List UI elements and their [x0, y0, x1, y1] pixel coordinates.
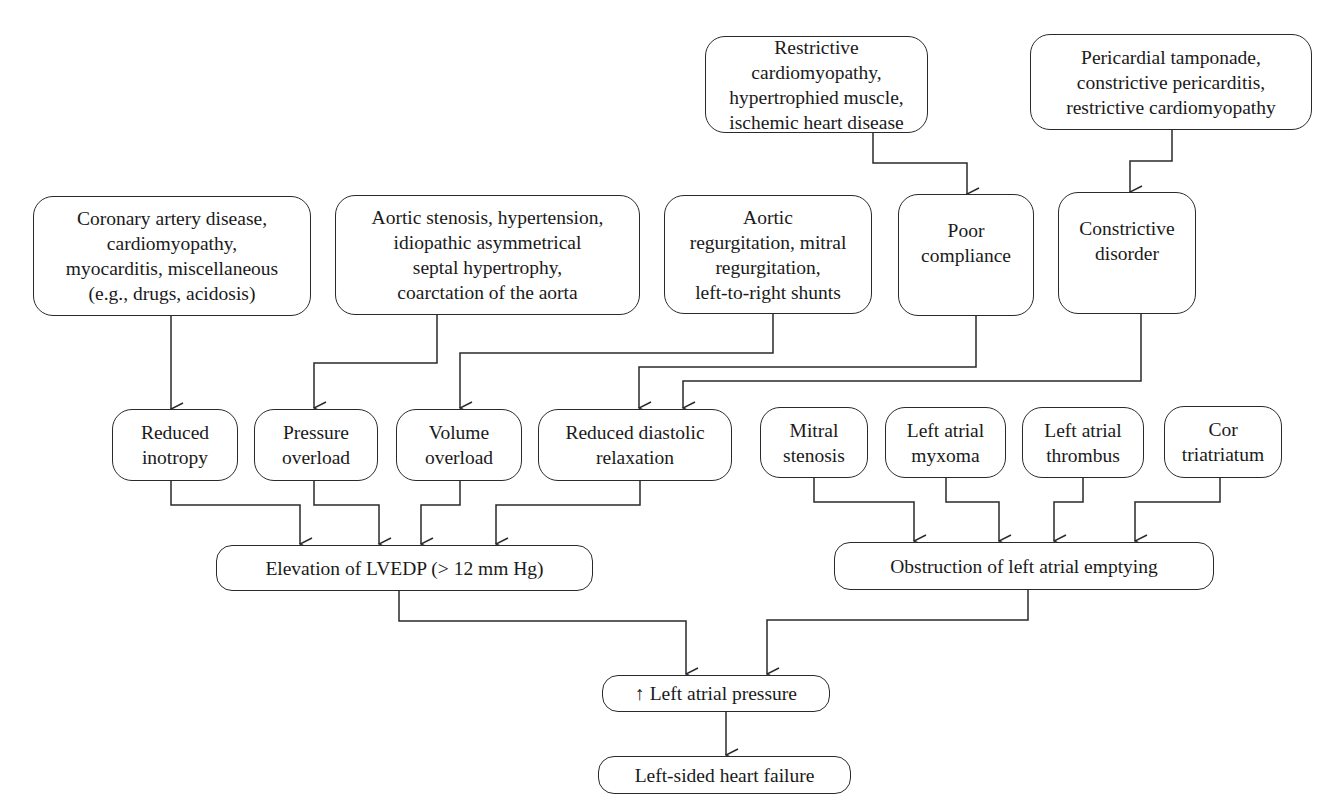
node-left-sided-heart-failure: Left-sided heart failure	[598, 756, 851, 794]
node-increased-la-pressure: ↑ Left atrial pressure	[602, 675, 830, 712]
edge-cor-to-obstruction	[1135, 478, 1220, 541]
edge-mitral-to-obstruction	[814, 478, 914, 541]
edge-obstruction-to-la-pressure	[767, 590, 1028, 674]
edge-lvedp-to-la-pressure	[399, 590, 686, 674]
edge-compliance-to-diastolic	[639, 316, 976, 408]
node-reduced-diastolic-relaxation: Reduced diastolic relaxation	[538, 409, 732, 481]
node-poor-compliance: Poor compliance	[898, 194, 1034, 316]
edge-restrictive-to-poor-compliance	[873, 133, 967, 194]
node-elevation-lvedp: Elevation of LVEDP (> 12 mm Hg)	[216, 545, 593, 591]
edge-pericardial-to-constrictive	[1130, 130, 1172, 192]
node-pressure-overload: Pressure overload	[254, 409, 378, 481]
node-volume-overload: Volume overload	[396, 409, 522, 481]
node-mitral-stenosis: Mitral stenosis	[760, 407, 868, 478]
edge-regurg-to-volume	[460, 314, 773, 408]
node-pericardial-causes: Pericardial tamponade, constrictive peri…	[1030, 34, 1312, 130]
node-reduced-inotropy: Reduced inotropy	[112, 409, 238, 481]
edge-aortic-stenosis-to-pressure	[314, 315, 437, 408]
node-regurgitation-causes: Aortic regurgitation, mitral regurgitati…	[664, 195, 872, 314]
flowchart-canvas: Restrictive cardiomyopathy, hypertrophie…	[0, 0, 1338, 810]
node-left-atrial-myxoma: Left atrial myxoma	[885, 407, 1006, 478]
node-constrictive-disorder: Constrictive disorder	[1058, 192, 1196, 314]
node-obstruction-la-emptying: Obstruction of left atrial emptying	[834, 542, 1214, 590]
node-restrictive-causes: Restrictive cardiomyopathy, hypertrophie…	[705, 36, 928, 133]
node-cor-triatriatum: Cor triatriatum	[1164, 406, 1282, 478]
node-aortic-stenosis-causes: Aortic stenosis, hypertension, idiopathi…	[335, 195, 640, 315]
edge-thrombus-to-obstruction	[1054, 478, 1083, 541]
edge-diastolic-to-lvedp	[496, 481, 640, 544]
edge-pressure-to-lvedp	[314, 481, 379, 544]
edge-myxoma-to-obstruction	[946, 478, 999, 541]
edge-constrictive-to-diastolic	[683, 314, 1141, 408]
node-coronary-causes: Coronary artery disease, cardiomyopathy,…	[33, 196, 311, 316]
edge-volume-to-lvedp	[421, 481, 460, 544]
edge-inotropy-to-lvedp	[171, 481, 300, 544]
node-left-atrial-thrombus: Left atrial thrombus	[1022, 407, 1144, 478]
